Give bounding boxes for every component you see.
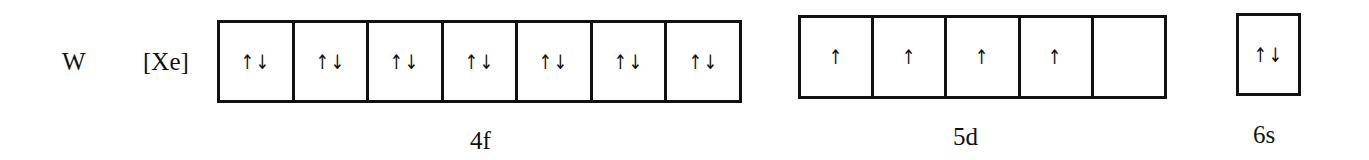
orbital-5d-4: ↑: [1021, 18, 1094, 96]
orbital-4f-1: ↑↓: [220, 23, 295, 100]
spin-pair-icon: ↑↓: [614, 50, 644, 74]
noble-gas-core: [Xe]: [143, 49, 189, 74]
orbital-5d-5: [1094, 18, 1164, 96]
element-symbol: W: [62, 49, 86, 74]
orbital-4f-4: ↑↓: [444, 23, 519, 100]
spin-pair-icon: ↑↓: [1253, 43, 1283, 67]
subshell-label-6s: 6s: [1253, 122, 1275, 147]
spin-pair-icon: ↑↓: [688, 50, 718, 74]
orbital-4f-7: ↑↓: [667, 23, 739, 100]
spin-pair-icon: ↑↓: [465, 50, 495, 74]
orbital-4f-5: ↑↓: [518, 23, 593, 100]
spin-pair-icon: ↑↓: [241, 50, 271, 74]
spin-pair-icon: ↑↓: [315, 50, 345, 74]
subshell-5d-boxes: ↑ ↑ ↑ ↑: [798, 15, 1167, 99]
orbital-6s-1: ↑↓: [1239, 16, 1298, 93]
subshell-label-4f: 4f: [470, 128, 491, 153]
subshell-label-5d: 5d: [953, 124, 978, 149]
orbital-4f-3: ↑↓: [369, 23, 444, 100]
spin-up-icon: ↑: [1048, 45, 1063, 69]
spin-up-icon: ↑: [975, 45, 990, 69]
orbital-5d-3: ↑: [947, 18, 1020, 96]
orbital-4f-6: ↑↓: [593, 23, 668, 100]
spin-pair-icon: ↑↓: [539, 50, 569, 74]
orbital-5d-1: ↑: [801, 18, 874, 96]
orbital-4f-2: ↑↓: [295, 23, 370, 100]
spin-up-icon: ↑: [902, 45, 917, 69]
spin-pair-icon: ↑↓: [390, 50, 420, 74]
subshell-4f-boxes: ↑↓ ↑↓ ↑↓ ↑↓ ↑↓ ↑↓ ↑↓: [217, 20, 742, 103]
orbital-5d-2: ↑: [874, 18, 947, 96]
spin-up-icon: ↑: [829, 45, 844, 69]
subshell-6s-boxes: ↑↓: [1236, 13, 1301, 96]
